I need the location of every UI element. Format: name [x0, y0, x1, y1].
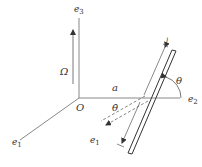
- e1-prime-label: e1: [90, 135, 100, 147]
- omega-label: Ω: [59, 66, 68, 77]
- theta-dot-arrows: [101, 96, 148, 125]
- lower-length-dimension: [117, 102, 140, 147]
- theta-dot-label: θ̇: [112, 102, 118, 113]
- mechanics-diagram: e3 Ω O e1 a θ e2 θ̇ e1 l: [0, 0, 202, 167]
- e1-axis: [20, 98, 79, 140]
- diagram-canvas: e3 Ω O e1 a θ e2 θ̇ e1 l: [0, 0, 202, 167]
- origin-label: O: [76, 102, 84, 113]
- e3-label: e3: [74, 4, 84, 16]
- e2-label: e2: [188, 94, 198, 106]
- rod: [128, 50, 176, 154]
- offset-a-label: a: [112, 82, 118, 93]
- theta-label: θ: [176, 75, 182, 86]
- e1-label: e1: [12, 137, 22, 149]
- upper-length-label: l: [166, 37, 168, 45]
